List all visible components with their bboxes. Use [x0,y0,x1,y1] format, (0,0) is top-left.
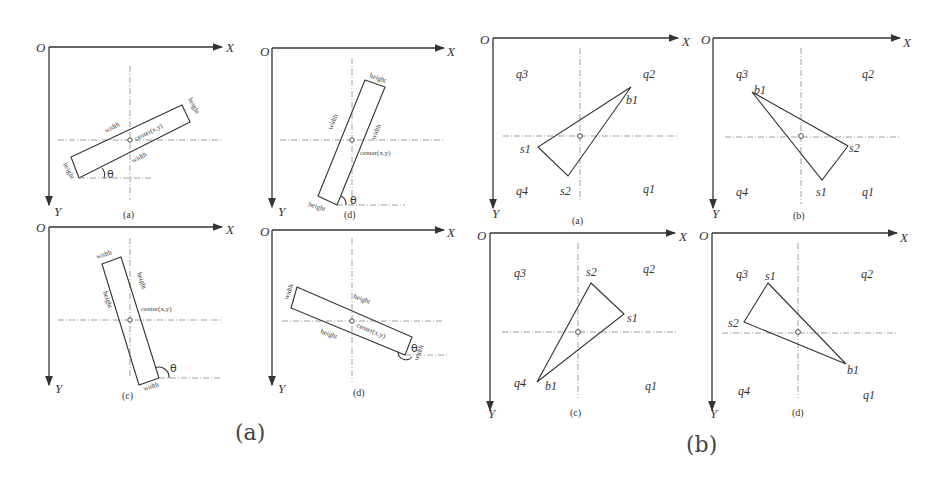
quadrant-label-q2: q2 [643,67,655,81]
center-point [799,134,804,139]
vertex-label-b1: b1 [545,379,557,393]
theta-label: θ [411,342,418,355]
panel-a-c: O X Y width width height height center(x… [36,220,235,402]
angle-arc [341,196,346,205]
width-label: width [142,380,160,393]
vertex-label-s1: s1 [520,142,531,156]
y-axis-label: Y [54,204,63,219]
panel-b-b: O X Y q3 q2 q4 q1 s1 s2 b1 (b) [701,32,912,222]
panel-a-d-bottom: O X Y width width height height center(x… [260,224,456,399]
y-axis-label: Y [712,206,721,221]
y-axis-label: Y [488,406,497,421]
origin-label: O [701,32,711,47]
x-axis-label: X [902,35,912,50]
height-label: height [307,200,326,213]
quadrant-label-q3: q3 [514,266,526,280]
origin-label: O [36,40,46,55]
vertex-label-b1: b1 [754,83,766,97]
group-b-label: (b) [686,432,717,457]
x-axis-label: X [681,34,691,49]
panel-caption: (c) [570,407,581,419]
quadrant-label-q1: q1 [643,182,655,196]
center-point [350,138,354,142]
figure-canvas: O X Y width width center(x,y) height hei… [0,0,952,480]
quadrant-label-q1: q1 [863,388,875,402]
width-label: width [103,120,121,135]
origin-label: O [260,44,270,59]
x-axis-label: X [446,44,456,59]
panel-caption: (b) [793,210,805,222]
panel-caption: (d) [353,387,365,399]
height-label: height [135,271,148,290]
y-axis-label: Y [278,204,287,219]
quadrant-label-q4: q4 [514,376,526,390]
theta-label: θ [107,168,114,181]
center-point [350,319,354,323]
width-label: width [95,248,113,261]
triangle [744,283,846,364]
center-point [576,330,581,335]
origin-label: O [699,228,709,243]
panel-a-d-top: O X Y width width height height center(x… [260,44,456,221]
origin-label: O [477,228,487,243]
width-label: width [369,123,383,141]
quadrant-label-q4: q4 [738,384,750,398]
theta-label: θ [170,362,177,375]
quadrant-label-q4: q4 [516,184,528,198]
group-a-label: (a) [235,420,265,445]
x-axis-label: X [225,222,235,237]
quadrant-label-q3: q3 [516,67,528,81]
panel-b-c: O X Y q3 q2 q4 q1 s1 s2 b1 (c) [477,228,688,421]
vertex-label-s2: s2 [849,141,860,155]
panel-caption: (d) [344,209,356,221]
quadrant-label-q4: q4 [736,185,748,199]
width-label: width [130,150,148,165]
panel-b-a: O X Y q3 q2 q4 q1 s1 s2 b1 (a) [480,32,691,227]
height-label: height [319,327,338,341]
quadrant-label-q2: q2 [643,262,655,276]
vertex-label-s2: s2 [728,316,739,330]
center-label: center(x,y) [360,149,391,157]
center-label: center(x,y) [141,305,172,313]
quadrant-label-q2: q2 [862,67,874,81]
panel-a-a: O X Y width width center(x,y) height hei… [36,40,235,221]
quadrant-label-q3: q3 [736,267,748,281]
center-point [128,138,132,142]
y-axis-label: Y [55,381,64,396]
panel-caption: (a) [572,215,583,227]
y-axis-label: Y [278,381,287,396]
x-axis-label: X [446,225,456,240]
panel-caption: (c) [122,390,133,402]
y-axis-label: Y [710,406,719,421]
vertex-label-s2: s2 [560,184,571,198]
origin-label: O [260,224,270,239]
vertex-label-b1: b1 [626,93,638,107]
height-label: height [101,290,114,309]
theta-label: θ [350,194,357,207]
center-point [578,134,583,139]
center-point [128,318,132,322]
vertex-label-b1: b1 [847,363,859,377]
vertex-label-s2: s2 [586,265,597,279]
height-label: height [368,71,387,85]
quadrant-label-q1: q1 [862,185,874,199]
vertex-label-s1: s1 [765,269,776,283]
angle-arc [102,168,105,178]
height-label: height [186,96,201,115]
x-axis-label: X [899,230,909,245]
vertex-label-s1: s1 [816,185,827,199]
quadrant-label-q2: q2 [861,267,873,281]
triangle [538,87,631,176]
panel-b-d: O X Y q3 q2 q4 q1 s1 s2 b1 (d) [699,228,909,421]
origin-label: O [36,220,46,235]
panel-caption: (a) [123,209,134,221]
x-axis-label: X [225,40,235,55]
y-axis-label: Y [492,206,501,221]
center-label: center(x,y) [133,121,164,142]
x-axis-label: X [678,229,688,244]
panel-caption: (d) [792,407,804,419]
quadrant-label-q3: q3 [736,67,748,81]
width-label: width [326,113,340,131]
height-label: height [352,292,371,306]
quadrant-label-q1: q1 [645,379,657,393]
